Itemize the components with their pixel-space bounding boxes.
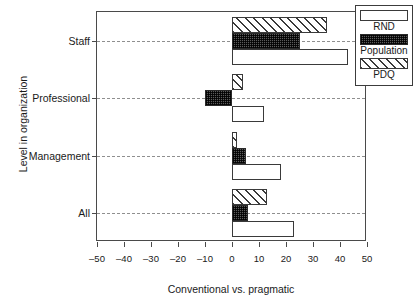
gridline	[97, 213, 365, 214]
y-tick-label-all: All	[78, 207, 90, 219]
x-tick	[286, 242, 287, 247]
x-tick	[205, 242, 206, 247]
y-tick-label-management: Management	[29, 150, 90, 162]
bar-pdq-all	[232, 189, 267, 205]
bar-rnd-staff	[232, 49, 348, 65]
white-swatch	[360, 10, 408, 21]
x-tick	[178, 242, 179, 247]
x-axis-title: Conventional vs. pragmatic	[96, 283, 366, 295]
x-tick	[313, 242, 314, 247]
gridline	[97, 41, 365, 42]
bar-rnd-management	[232, 164, 281, 180]
bar-pop-professional	[205, 90, 232, 106]
legend: RNDPopulationPDQ	[355, 5, 413, 86]
bar-pdq-management	[232, 132, 237, 148]
y-tick	[92, 41, 97, 42]
bar-pop-all	[232, 205, 248, 221]
y-tick	[92, 98, 97, 99]
y-tick	[92, 213, 97, 214]
bar-pop-staff	[232, 33, 300, 49]
legend-label-pdq: PDQ	[359, 69, 409, 81]
hatched-swatch	[360, 58, 408, 69]
bar-chart: Level in organization Conventional vs. p…	[0, 0, 415, 304]
bar-pdq-professional	[232, 74, 243, 90]
x-tick-label: 50	[350, 253, 384, 264]
y-tick-label-professional: Professional	[32, 92, 90, 104]
x-tick	[367, 242, 368, 247]
x-tick	[124, 242, 125, 247]
y-tick	[92, 156, 97, 157]
bar-pdq-staff	[232, 17, 327, 33]
bar-rnd-professional	[232, 106, 264, 122]
x-tick	[97, 242, 98, 247]
x-tick	[232, 242, 233, 247]
checkered-swatch	[360, 34, 408, 45]
y-axis-title: Level in organization	[17, 39, 29, 209]
x-tick	[340, 242, 341, 247]
legend-label-rnd: RND	[359, 21, 409, 33]
x-tick	[259, 242, 260, 247]
plot-area: –50–40–30–20–1001020304050 StaffProfessi…	[96, 11, 366, 241]
bar-pop-management	[232, 148, 246, 164]
bar-rnd-all	[232, 221, 294, 237]
legend-label-population: Population	[359, 45, 409, 57]
y-tick-label-staff: Staff	[69, 35, 90, 47]
x-tick	[151, 242, 152, 247]
gridline	[97, 156, 365, 157]
